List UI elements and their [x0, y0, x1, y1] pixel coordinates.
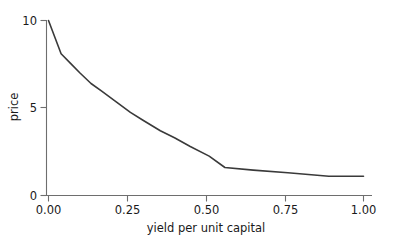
chart-figure: 10 5 0 0.00 0.25 0.50 0.75 1.00 yield pe…: [0, 0, 395, 245]
x-tick-label-0-25: 0.25: [115, 203, 141, 217]
price-vs-yield-line-chart: 10 5 0 0.00 0.25 0.50 0.75 1.00 yield pe…: [0, 0, 395, 245]
x-tick-label-0-50: 0.50: [194, 203, 220, 217]
x-tick-label-1-00: 1.00: [351, 203, 377, 217]
y-tick-label-0: 0: [30, 189, 37, 203]
x-tick-label-0-75: 0.75: [273, 203, 299, 217]
y-axis-title: price: [7, 93, 21, 122]
x-axis-title: yield per unit capital: [147, 221, 266, 235]
x-tick-label-0-00: 0.00: [36, 203, 62, 217]
y-tick-label-5: 5: [30, 101, 37, 115]
y-tick-label-10: 10: [22, 14, 37, 28]
